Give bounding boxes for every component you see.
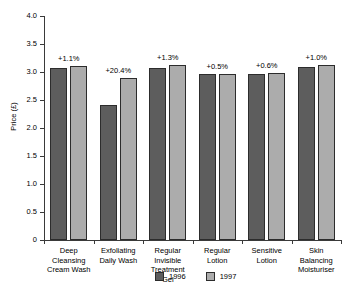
y-axis-tick: 1.0	[40, 184, 45, 185]
legend-item-1997: 1997	[206, 272, 237, 281]
category-label-line: Invisible	[143, 256, 193, 266]
bar-pct-label: +1.0%	[298, 53, 335, 62]
y-axis-tick-label: 2.0	[15, 123, 37, 132]
category-label-line: Moisturiser	[292, 265, 342, 275]
y-axis-tick-label: 1.5	[15, 151, 37, 160]
x-axis-tick	[341, 240, 342, 244]
y-axis-tick-label: 1.0	[15, 179, 37, 188]
y-axis-tick: 1.5	[40, 156, 45, 157]
bar-1997	[70, 66, 87, 240]
x-axis-category-label: RegularLotion	[193, 246, 243, 265]
category-label-line: Daily Wash	[94, 256, 144, 266]
bar-1997	[219, 74, 236, 240]
y-axis-title: Price (£)	[9, 82, 18, 152]
x-axis-tick	[143, 240, 144, 244]
category-label-line: Regular	[193, 246, 243, 256]
category-label-line: Lotion	[193, 256, 243, 266]
bar-group: +1.1%	[50, 16, 87, 240]
plot-area: 4.03.53.02.52.01.51.00.50 +1.1%+20.4%+1.…	[44, 16, 341, 240]
bar-chart: Price (£) 4.03.53.02.52.01.51.00.50 +1.1…	[0, 0, 363, 296]
category-label-line: Lotion	[242, 256, 292, 266]
x-axis-tick	[242, 240, 243, 244]
bar-1997	[318, 65, 335, 240]
x-axis-category-label: DeepCleansingCream Wash	[44, 246, 94, 275]
legend-item-1996: 1996	[155, 272, 186, 281]
y-axis-tick: 0.5	[40, 212, 45, 213]
bar-1996	[199, 74, 216, 240]
x-axis-category-label: SkinBalancingMoisturiser	[292, 246, 342, 275]
category-label-line: Cleansing	[44, 256, 94, 266]
y-axis-tick: 3.5	[40, 44, 45, 45]
x-axis-tick	[292, 240, 293, 244]
bar-1996	[50, 68, 67, 240]
bar-pct-label: +0.5%	[199, 62, 236, 71]
bar-group: +1.3%	[149, 16, 186, 240]
bar-group: +0.6%	[248, 16, 285, 240]
y-axis-tick: 3.0	[40, 72, 45, 73]
category-label-line: Deep	[44, 246, 94, 256]
category-label-line: Regular	[143, 246, 193, 256]
x-axis-category-label: SensitiveLotion	[242, 246, 292, 265]
y-axis-tick-label: 2.5	[15, 95, 37, 104]
y-axis-tick-label: 0.5	[15, 207, 37, 216]
bar-pct-label: +1.1%	[50, 54, 87, 63]
category-label-line: Cream Wash	[44, 265, 94, 275]
bar-group: +1.0%	[298, 16, 335, 240]
y-axis-tick-label: 0	[15, 235, 37, 244]
category-label-line: Exfoliating	[94, 246, 144, 256]
x-axis-tick	[44, 240, 45, 244]
category-label-line: Sensitive	[242, 246, 292, 256]
bar-1997	[268, 73, 285, 240]
y-axis-tick-label: 3.5	[15, 39, 37, 48]
x-axis-tick	[193, 240, 194, 244]
chart-legend: 1996 1997	[155, 272, 236, 281]
category-label-line: Balancing	[292, 256, 342, 266]
bar-group: +20.4%	[100, 16, 137, 240]
bar-1996	[149, 68, 166, 240]
y-axis-tick: 2.5	[40, 100, 45, 101]
legend-label-1997: 1997	[220, 272, 237, 281]
x-axis-tick	[94, 240, 95, 244]
y-axis-tick: 4.0	[40, 16, 45, 17]
bar-1997	[120, 78, 137, 240]
bar-1996	[248, 74, 265, 240]
y-axis-tick-label: 3.0	[15, 67, 37, 76]
bar-pct-label: +0.6%	[248, 61, 285, 70]
bar-1996	[100, 105, 117, 240]
y-axis-tick: 2.0	[40, 128, 45, 129]
legend-label-1996: 1996	[169, 272, 186, 281]
bar-pct-label: +1.3%	[149, 53, 186, 62]
legend-swatch-icon-1996	[155, 272, 164, 281]
bar-1997	[169, 65, 186, 240]
bar-group: +0.5%	[199, 16, 236, 240]
category-label-line: Skin	[292, 246, 342, 256]
bar-1996	[298, 67, 315, 240]
bar-pct-label: +20.4%	[100, 66, 137, 75]
y-axis-tick-label: 4.0	[15, 11, 37, 20]
x-axis-category-label: ExfoliatingDaily Wash	[94, 246, 144, 265]
legend-swatch-icon-1997	[206, 272, 215, 281]
